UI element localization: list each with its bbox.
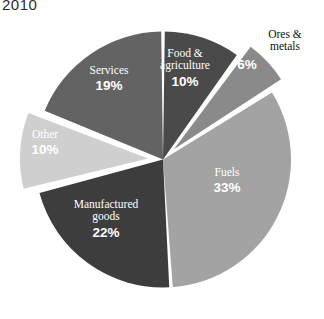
pie-chart: 2010 Food & agriculture 10% Ores & metal…: [0, 0, 324, 319]
pie-svg: [0, 0, 324, 319]
